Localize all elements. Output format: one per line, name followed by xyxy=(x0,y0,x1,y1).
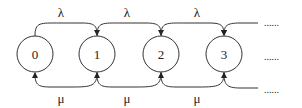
continuation-dots-middle: ...... xyxy=(264,51,279,62)
service-rate-label: μ xyxy=(58,91,65,106)
service-arrow-3-2 xyxy=(161,72,224,87)
state-0-label: 0 xyxy=(32,47,39,62)
service-rate-label: μ xyxy=(194,91,201,106)
arrival-arrow-0-1 xyxy=(35,23,97,36)
continuation-dots-bottom: ...... xyxy=(264,84,279,95)
service-arrow-out-3 xyxy=(224,73,258,88)
service-arrow-1-0 xyxy=(35,72,97,87)
service-rate-label: μ xyxy=(124,91,131,106)
state-1-label: 1 xyxy=(94,47,101,62)
state-diagram: 0 1 2 3 λ λ λ μ μ μ ...... ...... ...... xyxy=(0,0,302,108)
continuation-dots-top: ...... xyxy=(264,17,279,28)
arrival-rate-label: λ xyxy=(124,5,131,20)
arrival-arrow-1-2 xyxy=(97,23,161,36)
service-arrow-2-1 xyxy=(97,72,161,87)
arrival-rate-label: λ xyxy=(58,5,65,20)
state-3-label: 3 xyxy=(221,47,228,62)
diagram-canvas: 0 1 2 3 λ λ λ μ μ μ ...... ...... ...... xyxy=(0,0,302,108)
arrival-arrow-3-in xyxy=(224,23,258,35)
arrival-rate-label: λ xyxy=(194,5,201,20)
arrival-arrow-2-3 xyxy=(161,23,224,36)
state-2-label: 2 xyxy=(158,47,165,62)
